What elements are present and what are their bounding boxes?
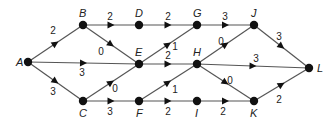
node-d: D bbox=[135, 7, 143, 29]
node-dot-icon bbox=[193, 60, 201, 68]
node-j: J bbox=[250, 7, 258, 29]
node-dot-icon bbox=[24, 58, 32, 66]
edge-weight-label: 1 bbox=[172, 41, 178, 52]
edge-k-l: 2 bbox=[254, 68, 309, 105]
edge-weight-label: 1 bbox=[172, 84, 178, 95]
node-i: I bbox=[193, 97, 201, 119]
node-label: L bbox=[317, 62, 323, 74]
edge-i-k: 2 bbox=[197, 98, 254, 118]
edge-weight-label: 0 bbox=[218, 36, 224, 47]
edge-a-b: 2 bbox=[28, 25, 83, 62]
node-label: J bbox=[250, 7, 257, 19]
node-dot-icon bbox=[79, 97, 87, 105]
arrowhead-icon bbox=[108, 22, 115, 29]
arrowhead-icon bbox=[165, 22, 172, 29]
edge-weight-label: 0 bbox=[227, 75, 233, 86]
node-label: I bbox=[195, 107, 198, 119]
edge-weight-label: 2 bbox=[165, 106, 171, 117]
edge-d-g: 2 bbox=[139, 11, 197, 29]
edge-weight-label: 2 bbox=[276, 94, 282, 105]
arrowhead-icon bbox=[51, 42, 59, 49]
arrowhead-icon bbox=[163, 81, 171, 88]
arrowhead-icon bbox=[165, 61, 172, 68]
edge-weight-label: 2 bbox=[165, 11, 171, 22]
edge-weight-label: 3 bbox=[222, 11, 228, 22]
network-diagram: 2332003212123030232 ABCDEFGHIJKL bbox=[0, 0, 332, 126]
node-label: H bbox=[193, 46, 201, 58]
node-a: A bbox=[15, 56, 32, 68]
arrowhead-icon bbox=[165, 98, 172, 105]
edge-weight-label: 2 bbox=[165, 50, 171, 61]
node-dot-icon bbox=[193, 21, 201, 29]
arrowhead-icon bbox=[222, 98, 229, 105]
arrowhead-icon bbox=[108, 98, 115, 105]
node-g: G bbox=[193, 7, 202, 29]
edge-b-e: 0 bbox=[83, 25, 139, 64]
node-dot-icon bbox=[250, 97, 258, 105]
edge-h-j: 0 bbox=[197, 25, 254, 64]
node-label: F bbox=[136, 107, 144, 119]
node-dot-icon bbox=[250, 21, 258, 29]
node-label: B bbox=[79, 7, 86, 19]
node-c: C bbox=[79, 97, 87, 119]
edge-a-c: 3 bbox=[28, 62, 83, 101]
node-l: L bbox=[305, 62, 323, 74]
edge-c-f: 3 bbox=[83, 98, 139, 118]
edge-g-j: 3 bbox=[197, 11, 254, 29]
node-dot-icon bbox=[193, 97, 201, 105]
node-label: C bbox=[79, 107, 87, 119]
edges-layer: 2332003212123030232 bbox=[28, 11, 309, 117]
node-dot-icon bbox=[135, 21, 143, 29]
edge-weight-label: 3 bbox=[79, 67, 85, 78]
edge-weight-label: 0 bbox=[98, 46, 104, 57]
edge-weight-label: 3 bbox=[50, 86, 56, 97]
edge-j-l: 3 bbox=[254, 25, 309, 68]
node-label: G bbox=[193, 7, 202, 19]
node-dot-icon bbox=[135, 60, 143, 68]
edge-weight-label: 3 bbox=[276, 31, 282, 42]
arrowhead-icon bbox=[277, 42, 285, 49]
node-e: E bbox=[135, 46, 143, 68]
arrowhead-icon bbox=[106, 40, 114, 47]
node-h: H bbox=[193, 46, 201, 68]
edge-weight-label: 3 bbox=[107, 106, 113, 117]
node-dot-icon bbox=[305, 64, 313, 72]
edge-f-i: 2 bbox=[139, 98, 197, 118]
node-dot-icon bbox=[135, 97, 143, 105]
arrowhead-icon bbox=[80, 59, 87, 66]
arrowhead-icon bbox=[163, 43, 171, 50]
node-label: D bbox=[135, 7, 143, 19]
edge-c-e: 0 bbox=[83, 64, 139, 101]
edge-weight-label: 2 bbox=[220, 106, 226, 117]
arrowhead-icon bbox=[51, 77, 59, 84]
node-label: E bbox=[135, 46, 143, 58]
node-b: B bbox=[79, 7, 87, 29]
node-dot-icon bbox=[79, 21, 87, 29]
edge-b-d: 2 bbox=[83, 11, 139, 29]
edge-weight-label: 2 bbox=[50, 25, 56, 36]
arrowhead-icon bbox=[222, 22, 229, 29]
node-label: K bbox=[250, 107, 258, 119]
node-label: A bbox=[15, 56, 23, 68]
edge-f-h: 1 bbox=[139, 64, 197, 101]
edge-weight-label: 0 bbox=[112, 83, 118, 94]
edge-weight-label: 2 bbox=[107, 11, 113, 22]
node-f: F bbox=[135, 97, 144, 119]
edge-h-k: 0 bbox=[197, 64, 254, 101]
edge-weight-label: 3 bbox=[253, 53, 259, 64]
node-k: K bbox=[250, 97, 258, 119]
